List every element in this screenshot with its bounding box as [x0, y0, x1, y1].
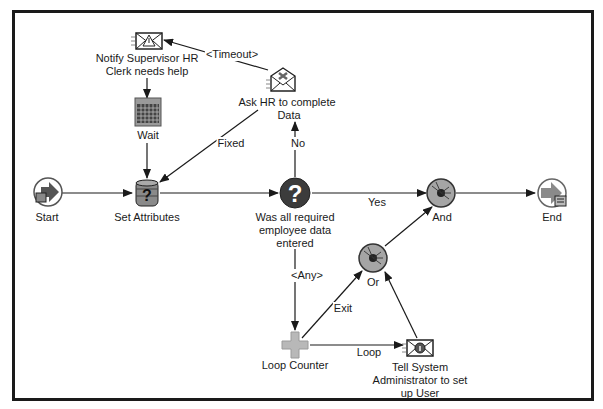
set-attributes-label: Set Attributes [114, 211, 179, 224]
decision-label-line3: entered [276, 237, 313, 250]
edge-label-yes: Yes [367, 196, 387, 209]
loop-counter-plus-icon [281, 331, 309, 359]
ask-hr-node[interactable] [266, 66, 296, 92]
and-label: And [432, 211, 452, 224]
or-join-icon [358, 243, 388, 273]
edge-label-exit: Exit [333, 302, 353, 315]
tell-admin-label-line1: Tell System [392, 361, 448, 374]
edge-label-fixed: Fixed [217, 137, 246, 150]
loop-counter-label: Loop Counter [262, 359, 329, 372]
notify-supervisor-label-line1: Notify Supervisor HR [96, 52, 199, 65]
decision-label-line2: employee data [259, 224, 331, 237]
end-node[interactable] [536, 177, 568, 209]
loop-counter-node[interactable] [281, 331, 309, 359]
edge-or-and [385, 207, 432, 246]
calendar-icon [134, 97, 162, 127]
edge-label-any: <Any> [290, 269, 324, 282]
edge-telladmin-or [385, 272, 417, 338]
or-label: Or [367, 276, 379, 289]
database-question-icon: ? [134, 178, 160, 208]
svg-text:?: ? [288, 180, 303, 207]
notify-supervisor-node[interactable] [131, 31, 165, 51]
and-join-icon [426, 178, 456, 208]
wait-label: Wait [137, 129, 159, 142]
ask-hr-label-line1: Ask HR to complete [238, 96, 335, 109]
edge-label-no: No [290, 137, 306, 150]
tell-admin-node[interactable] [402, 338, 436, 358]
decision-node[interactable]: ? [279, 177, 311, 209]
tell-admin-label-line2: Administrator to set [373, 374, 468, 387]
and-node[interactable] [426, 178, 456, 208]
start-icon [32, 176, 64, 208]
or-node[interactable] [358, 243, 388, 273]
notify-supervisor-label-line2: Clerk needs help [106, 65, 189, 78]
ask-hr-label-line2: Data [277, 109, 300, 122]
question-decision-icon: ? [279, 177, 311, 209]
decision-label-line1: Was all required [255, 211, 334, 224]
email-error-icon [266, 66, 296, 92]
svg-text:?: ? [142, 187, 152, 204]
notification-info-icon [402, 338, 436, 358]
start-label: Start [35, 211, 58, 224]
edge-label-loop: Loop [356, 346, 382, 359]
tell-admin-label-line3: up User [401, 387, 440, 400]
set-attributes-node[interactable]: ? [134, 178, 160, 208]
end-icon [536, 177, 568, 209]
wait-node[interactable] [134, 97, 162, 127]
edge-label-timeout: <Timeout> [205, 48, 259, 61]
end-label: End [542, 211, 562, 224]
notification-warning-icon [131, 31, 165, 51]
start-node[interactable] [32, 176, 64, 208]
workflow-canvas[interactable]: Start ? Set Attributes Notify Supervisor… [0, 0, 603, 409]
